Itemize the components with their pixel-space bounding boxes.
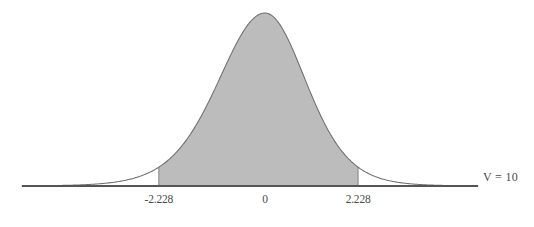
- degrees-of-freedom-label: V = 10: [483, 170, 518, 185]
- x-tick-label: -2.228: [145, 193, 174, 205]
- shaded-confidence-region: [159, 13, 358, 186]
- x-tick-label: 0: [262, 193, 268, 205]
- x-tick-label: 2.228: [346, 193, 371, 205]
- t-distribution-figure: -2.22802.228 V = 10: [0, 0, 534, 227]
